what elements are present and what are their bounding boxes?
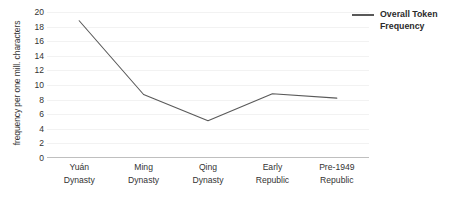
y-tick-label: 18 — [24, 22, 44, 31]
plot-area — [47, 12, 369, 158]
y-axis-tick-labels: 02468101214161820 — [24, 12, 44, 158]
legend-label-line1: Overall Token — [380, 9, 438, 19]
x-category-label-line2: Dynasty — [47, 174, 111, 187]
legend: Overall Token Frequency — [352, 8, 460, 32]
x-category-label: EarlyRepublic — [240, 161, 304, 195]
x-category-label: MingDynasty — [111, 161, 175, 195]
x-category-label-line1: Early — [240, 161, 304, 174]
line-chart: frequency per one mill. characters 02468… — [0, 0, 461, 199]
y-tick-label: 14 — [24, 51, 44, 60]
x-category-label-line2: Dynasty — [176, 174, 240, 187]
legend-line-marker — [352, 14, 374, 16]
series-overall-token-frequency — [47, 12, 369, 158]
y-tick-label: 4 — [24, 124, 44, 133]
x-category-label-line1: Yuán — [47, 161, 111, 174]
y-tick-label: 12 — [24, 66, 44, 75]
x-category-label-line2: Dynasty — [111, 174, 175, 187]
y-tick-label: 8 — [24, 95, 44, 104]
y-tick-label: 0 — [24, 154, 44, 163]
legend-label-line2: Frequency — [380, 21, 425, 31]
x-category-label-line2: Republic — [240, 174, 304, 187]
x-category-label-line2: Republic — [305, 174, 369, 187]
y-tick-label: 10 — [24, 81, 44, 90]
y-tick-label: 2 — [24, 139, 44, 148]
y-tick-label: 20 — [24, 8, 44, 17]
x-axis-line — [47, 157, 369, 158]
legend-entry-label: Overall Token Frequency — [380, 8, 452, 32]
x-category-label: QingDynasty — [176, 161, 240, 195]
y-tick-label: 16 — [24, 37, 44, 46]
x-axis-category-labels: YuánDynastyMingDynastyQingDynastyEarlyRe… — [47, 161, 369, 195]
y-tick-label: 6 — [24, 110, 44, 119]
x-category-label-line1: Qing — [176, 161, 240, 174]
x-category-label-line1: Ming — [111, 161, 175, 174]
x-category-label-line1: Pre-1949 — [305, 161, 369, 174]
x-category-label: Pre-1949Republic — [305, 161, 369, 195]
y-axis-title: frequency per one mill. characters — [10, 3, 24, 163]
x-category-label: YuánDynasty — [47, 161, 111, 195]
